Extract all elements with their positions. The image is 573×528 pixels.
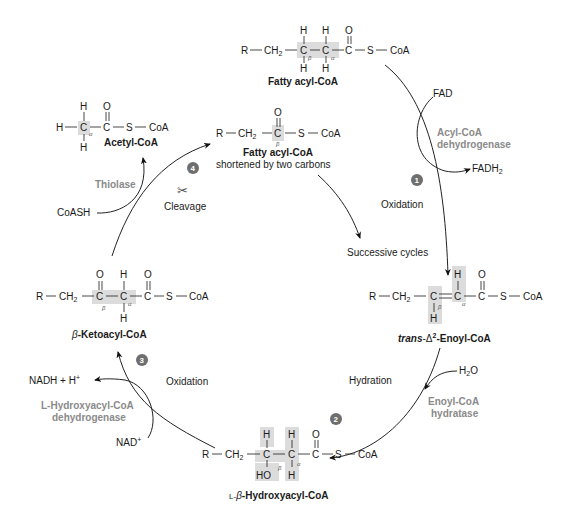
atom-h: H: [80, 101, 87, 112]
shortened-subtitle: shortened by two carbons: [216, 159, 331, 170]
hydration-arrow: [330, 348, 440, 458]
atom-r: R: [216, 128, 223, 139]
atom-h: H: [288, 470, 295, 481]
atom-c-alpha: C: [454, 291, 461, 302]
alpha-label: α: [331, 55, 335, 61]
atom-c-alpha: C: [288, 449, 295, 460]
water-cofactor-arrow: [425, 371, 457, 389]
atom-h: H: [322, 25, 329, 36]
atom-c-carbonyl: C: [144, 291, 151, 302]
step-number: 3: [140, 356, 145, 365]
step-4-process: Cleavage: [164, 201, 207, 212]
atom-ch2: CH2: [59, 291, 77, 303]
enzyme-thiolase: Thiolase: [95, 179, 136, 190]
atom-h: H: [80, 142, 87, 153]
atom-coa: CoA: [358, 449, 378, 460]
atom-ch2: CH2: [225, 449, 243, 461]
enzyme-hydroxyacyl-coa-dehydrogenase: L-Hydroxyacyl-CoA: [41, 400, 134, 411]
atom-c-carbonyl: C: [345, 45, 352, 56]
beta-label: β: [437, 304, 442, 310]
atom-c-carbonyl: C: [478, 291, 485, 302]
atom-o: O: [274, 107, 282, 118]
nad-label: NAD+: [116, 436, 141, 448]
fatty-acyl-coa-structure: R CH2 C β H H C α H H C O S CoA Fatty ac…: [241, 25, 410, 87]
atom-c-carbonyl: C: [312, 449, 319, 460]
atom-h: H: [430, 313, 437, 324]
beta-label: β: [277, 465, 282, 471]
atom-r: R: [202, 449, 209, 460]
step-2-process: Hydration: [349, 375, 392, 386]
hydroxyl-group: HO: [256, 470, 271, 481]
enoyl-coa-structure: R CH2 C C α β H H C O S CoA trans-Δ2-Eno…: [369, 266, 543, 344]
atom-s: S: [500, 291, 507, 302]
atom-coa: CoA: [321, 128, 341, 139]
atom-o: O: [312, 429, 320, 440]
beta-label: β: [307, 55, 312, 61]
shortened-acyl-coa-label: Fatty acyl-CoA: [243, 147, 313, 158]
step-1-process: Oxidation: [381, 199, 423, 210]
atom-h: H: [56, 122, 63, 133]
acetyl-coa-label: Acetyl-CoA: [104, 137, 158, 148]
scissors-icon: ✂: [177, 183, 188, 198]
atom-s: S: [126, 122, 133, 133]
atom-o: O: [478, 269, 486, 280]
alpha-label: α: [128, 301, 132, 307]
atom-ch2: CH2: [264, 45, 282, 57]
atom-c-alpha: C: [322, 45, 329, 56]
beta-oxidation-diagram: R CH2 C β H H C α H H C O S CoA Fatty ac…: [0, 0, 573, 528]
alpha-label: α: [297, 461, 301, 467]
atom-o: O: [103, 101, 111, 112]
enzyme-line2: dehydrogenase: [437, 139, 511, 150]
atom-r: R: [241, 45, 248, 56]
atom-c-beta: C: [96, 291, 103, 302]
atom-h: H: [322, 63, 329, 74]
atom-h: H: [120, 313, 127, 324]
enzyme-line2: hydratase: [431, 408, 479, 419]
water-label: H2O: [459, 365, 478, 377]
acetyl-coa-structure: H C α H H C O S CoA Acetyl-CoA: [56, 101, 169, 153]
atom-coa: CoA: [390, 45, 410, 56]
atom-c-beta: C: [300, 45, 307, 56]
atom-r: R: [369, 291, 376, 302]
successive-cycles-arrow: [318, 175, 360, 238]
alpha-label: α: [462, 301, 466, 307]
step-number: 1: [415, 176, 420, 185]
enoyl-coa-label: trans-Δ2-Enoyl-CoA: [398, 332, 491, 344]
atom-o: O: [96, 269, 104, 280]
atom-h: H: [300, 25, 307, 36]
atom-ch2: CH2: [392, 291, 410, 303]
atom-c-beta: C: [430, 291, 437, 302]
atom-h: H: [263, 429, 270, 440]
atom-o: O: [345, 25, 353, 36]
atom-s: S: [298, 128, 305, 139]
atom-s: S: [367, 45, 374, 56]
atom-o: O: [144, 269, 152, 280]
atom-h: H: [300, 63, 307, 74]
enzyme-line2: dehydrogenase: [52, 412, 126, 423]
ketoacyl-coa-structure: R CH2 C O β C α H H C O S CoA β-Ketoacyl…: [36, 269, 209, 340]
beta-label: β: [101, 305, 106, 311]
fadh2-label: FADH2: [472, 163, 503, 175]
atom-h: H: [120, 269, 127, 280]
step-number: 4: [191, 164, 196, 173]
fad-label: FAD: [433, 88, 452, 99]
enzyme-enoyl-coa-hydratase: Enoyl-CoA: [428, 396, 479, 407]
coash-label: CoASH: [57, 207, 90, 218]
atom-s: S: [166, 291, 173, 302]
alpha-label: α: [89, 131, 93, 137]
shortened-fatty-acyl-coa-structure: R CH2 C β O S CoA Fatty acyl-CoA shorten…: [216, 107, 341, 170]
enzyme-acyl-coa-dehydrogenase: Acyl-CoA: [437, 127, 482, 138]
atom-c-alpha: C: [120, 291, 127, 302]
ketoacyl-coa-label: β-Ketoacyl-CoA: [71, 329, 147, 340]
atom-h: H: [454, 269, 461, 280]
cleavage-arrow: [112, 144, 210, 256]
atom-c-alpha: C: [80, 122, 87, 133]
hydroxyacyl-coa-structure: R CH2 C H HO β C α H H C O S CoA L-β-Hyd…: [202, 427, 378, 501]
atom-r: R: [36, 291, 43, 302]
hydroxyacyl-coa-label: L-β-Hydroxyacyl-CoA: [229, 490, 329, 501]
atom-c-beta: C: [263, 449, 270, 460]
atom-coa: CoA: [149, 122, 169, 133]
atom-c-beta: C: [274, 128, 281, 139]
successive-cycles-label: Successive cycles: [347, 247, 428, 258]
atom-ch2: CH2: [238, 128, 256, 140]
